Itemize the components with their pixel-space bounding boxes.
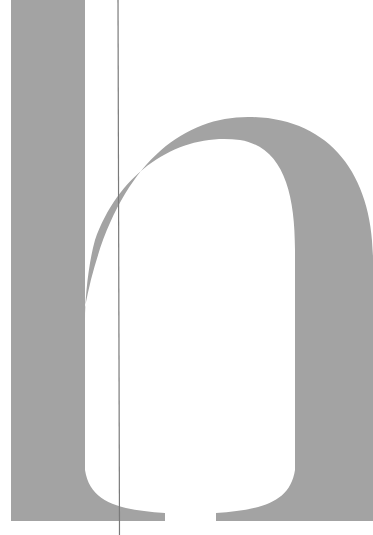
glyph-h-graphic [0, 0, 373, 535]
glyph-specimen: h [0, 0, 373, 535]
vertical-guide-line [118, 0, 120, 535]
glyph-h-shape [11, 0, 373, 521]
